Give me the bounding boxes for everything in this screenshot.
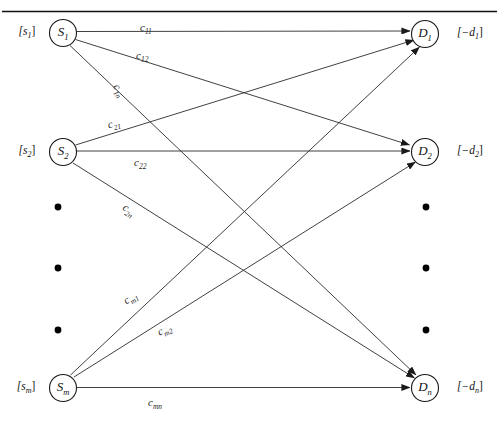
ellipsis-dot-left-1	[55, 204, 62, 211]
ellipsis-dot-right-1	[423, 204, 430, 211]
source-label-sm: Sm	[57, 380, 70, 396]
supply-label-sm: [sm]	[17, 381, 36, 395]
edge-sm-d2	[74, 162, 416, 377]
demand-label-dn: [−dn]	[457, 381, 483, 395]
edge-s1-d1	[77, 31, 411, 32]
demand-label-d2: [−d2]	[457, 145, 483, 159]
ellipsis-dot-right-3	[423, 327, 430, 334]
ellipsis-dot-left-2	[55, 265, 62, 272]
supply-label-s2: [s2]	[19, 145, 36, 159]
destination-label-d2: D2	[418, 144, 432, 160]
destination-label-dn: Dn	[418, 380, 432, 396]
edge-cost-c11: c11	[140, 22, 152, 36]
source-label-s2: S2	[58, 144, 69, 160]
destination-label-d1: D1	[418, 26, 432, 42]
edge-cost-c22: c22	[134, 157, 146, 171]
ellipsis-dot-left-3	[55, 327, 62, 334]
ellipsis-dot-right-2	[423, 265, 430, 272]
network-graphics	[0, 0, 499, 424]
source-label-s1: S1	[58, 25, 69, 41]
demand-label-d1: [−d1]	[457, 27, 483, 41]
edge-cost-cmn: cmn	[148, 397, 162, 411]
edge-cost-c12: c12	[136, 50, 148, 64]
transportation-network-figure: S1 S2 Sm [s1] [s2] [sm] D1 D2 Dn [−d1] […	[0, 0, 499, 424]
supply-label-s1: [s1]	[19, 26, 36, 40]
